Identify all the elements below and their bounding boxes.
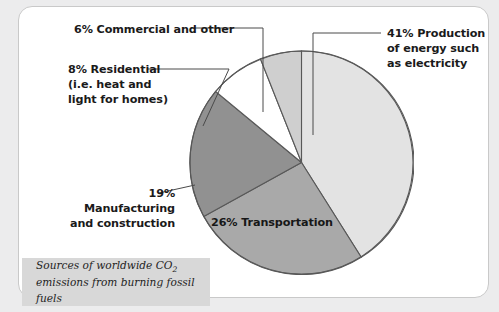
pie-chart xyxy=(189,50,414,275)
pie-chart-svg xyxy=(189,50,414,275)
label-manufacturing: 19% Manufacturing and construction xyxy=(55,187,175,231)
figure-card: 6% Commercial and other 8% Residential (… xyxy=(18,6,489,298)
caption-subscript: 2 xyxy=(173,265,178,274)
label-transportation: 26% Transportation xyxy=(211,216,333,229)
caption-line1-text: Sources of worldwide CO xyxy=(36,259,173,271)
caption-line2-text: emissions from burning fossil fuels xyxy=(36,276,195,303)
label-residential: 8% Residential (i.e. heat and light for … xyxy=(68,63,168,107)
label-commercial: 6% Commercial and other xyxy=(74,23,234,38)
figure-caption-text: Sources of worldwide CO2 emissions from … xyxy=(22,258,210,306)
label-production: 41% Production of energy such as electri… xyxy=(387,27,489,71)
figure-caption-box: Sources of worldwide CO2 emissions from … xyxy=(22,258,210,306)
